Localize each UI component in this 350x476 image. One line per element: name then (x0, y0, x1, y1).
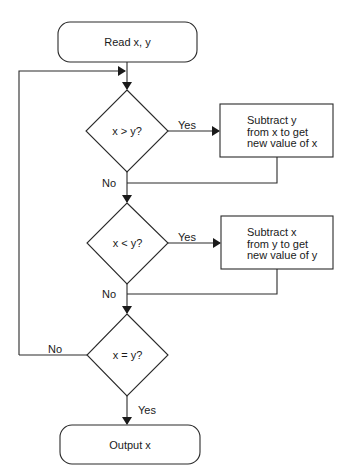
edge-label-d3-no: No (48, 343, 62, 355)
line-p1-return (127, 157, 277, 183)
decision3-label: x = y? (87, 349, 168, 361)
process1-line-3: new value of x (247, 138, 317, 150)
decision1-label: x > y? (86, 125, 168, 137)
edge-label-d1-no: No (102, 177, 116, 189)
decision2-label: x < y? (87, 237, 168, 249)
process1-text: Subtract y from x to get new value of x (247, 115, 317, 150)
process2-text: Subtract x from y to get new value of y (247, 227, 317, 262)
process2-line-3: new value of y (247, 250, 317, 262)
edge-label-d2-yes: Yes (178, 231, 196, 243)
process2-line-1: Subtract x (247, 227, 317, 239)
process1-line-1: Subtract y (247, 115, 317, 127)
edge-label-d1-yes: Yes (178, 119, 196, 131)
end-label: Output x (60, 439, 200, 451)
line-p2-return (127, 269, 277, 294)
edge-label-d2-no: No (102, 288, 116, 300)
start-label: Read x, y (58, 36, 197, 48)
edge-label-d3-yes: Yes (138, 404, 156, 416)
